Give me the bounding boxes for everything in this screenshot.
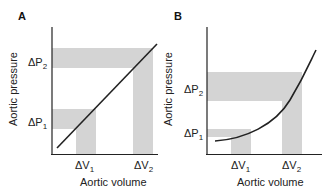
- delta-v1-band: [231, 129, 251, 154]
- tick-delta-p2: ΔP2: [184, 83, 204, 98]
- delta-v1-band: [76, 109, 96, 154]
- compliance-diagram: A ΔP2 ΔP1 ΔV1 ΔV2 Aortic volume Aortic p…: [0, 0, 326, 194]
- tick-delta-v1: ΔV1: [75, 159, 95, 174]
- tick-delta-p2: ΔP2: [28, 56, 48, 71]
- x-axis-label: Aortic volume: [237, 176, 304, 188]
- delta-v2-band: [133, 48, 153, 154]
- tick-delta-v1: ΔV1: [231, 159, 251, 174]
- panel-b-label: B: [174, 10, 182, 22]
- panel-a-label: A: [18, 10, 26, 22]
- tick-delta-p1: ΔP1: [28, 116, 48, 131]
- tick-delta-p1: ΔP1: [184, 127, 204, 142]
- tick-delta-v2: ΔV2: [134, 159, 154, 174]
- y-axis-label: Aortic pressure: [7, 52, 19, 126]
- x-axis-label: Aortic volume: [80, 176, 147, 188]
- tick-delta-v2: ΔV2: [282, 159, 302, 174]
- y-axis-label: Aortic pressure: [162, 52, 174, 126]
- panel-b: B ΔP2 ΔP1 ΔV1 ΔV2 Aortic volume Aortic p…: [162, 10, 322, 188]
- panel-a: A ΔP2 ΔP1 ΔV1 ΔV2 Aortic volume Aortic p…: [7, 10, 158, 188]
